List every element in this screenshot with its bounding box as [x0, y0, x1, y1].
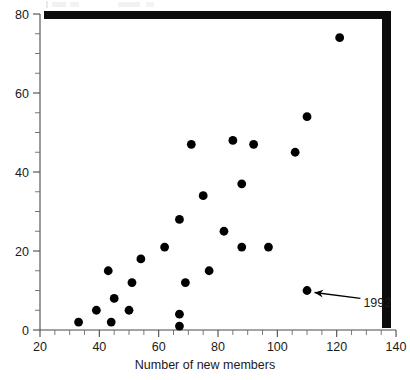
- x-tick-label-20: 20: [33, 340, 47, 354]
- y-tick-label-60: 60: [15, 87, 29, 101]
- data-point: (69, 12): [181, 278, 190, 287]
- data-point: (88, 37): [237, 179, 246, 188]
- data-point: (92, 47): [249, 140, 258, 149]
- data-point: (88, 21): [237, 243, 246, 252]
- data-point: (44, 2): [107, 318, 116, 327]
- y-tick-label-80: 80: [15, 8, 29, 22]
- data-point: (51, 12): [128, 278, 137, 287]
- data-point: (82, 25): [220, 227, 229, 236]
- data-point: (39, 5): [92, 306, 101, 315]
- data-point: (67, 28): [175, 215, 184, 224]
- x-tick-label-120: 120: [326, 340, 347, 354]
- plot-canvas: 020406080 20406080100120140 (33, 2)(39, …: [0, 0, 410, 380]
- data-point: (106, 45): [291, 148, 300, 157]
- y-tick-label-0: 0: [22, 324, 29, 338]
- scan-artifact-border: [44, 11, 391, 328]
- data-point: (67, 4): [175, 310, 184, 319]
- x-tick-label-140: 140: [386, 340, 407, 354]
- x-axis-ticks: [40, 330, 396, 337]
- annotation-layer: 1992: [315, 290, 392, 310]
- y-tick-label-20: 20: [15, 245, 29, 259]
- data-point: (77, 15): [205, 266, 214, 275]
- data-point: (97, 21): [264, 243, 273, 252]
- x-tick-label-40: 40: [92, 340, 106, 354]
- x-tick-label-80: 80: [211, 340, 225, 354]
- data-point-series: (33, 2)(39, 5)(43, 15)(44, 2)(45, 8)(50,…: [74, 33, 344, 330]
- x-tick-label-100: 100: [267, 340, 288, 354]
- data-point: (45, 8): [110, 294, 119, 303]
- data-point: (62, 21): [160, 243, 169, 252]
- data-point: (43, 15): [104, 266, 113, 275]
- data-point: (71, 47): [187, 140, 196, 149]
- data-point: (54, 18): [136, 255, 145, 264]
- x-axis-tick-labels: 20406080100120140: [33, 340, 406, 354]
- scan-ghost-text: [46, 1, 154, 8]
- data-point: (110, 54): [303, 112, 312, 121]
- data-point: (33, 2): [74, 318, 83, 327]
- x-axis-title: Number of new members: [135, 358, 275, 372]
- data-point: (50, 5): [125, 306, 134, 315]
- annotation-label-1992: 1992: [363, 296, 391, 310]
- y-axis-ticks: [33, 14, 40, 330]
- axes: [40, 14, 396, 330]
- data-point: (85, 48): [228, 136, 237, 145]
- scatter-plot-figure: 020406080 20406080100120140 (33, 2)(39, …: [0, 0, 410, 380]
- x-tick-label-60: 60: [152, 340, 166, 354]
- data-point: (67, 1): [175, 322, 184, 331]
- data-point: (121, 74): [335, 33, 344, 42]
- y-tick-label-40: 40: [15, 166, 29, 180]
- y-axis-tick-labels: 020406080: [15, 8, 29, 338]
- data-point: (110, 10): [303, 286, 312, 295]
- data-point: (75, 34): [199, 191, 208, 200]
